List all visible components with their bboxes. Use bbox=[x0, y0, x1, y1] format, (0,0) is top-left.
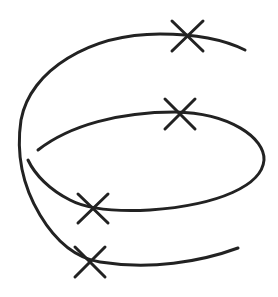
spiral-inner-path bbox=[28, 112, 264, 211]
spiral-diagram bbox=[0, 0, 278, 297]
diagram-canvas bbox=[0, 0, 278, 297]
spiral-outer-path bbox=[19, 34, 245, 265]
